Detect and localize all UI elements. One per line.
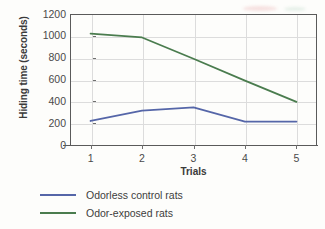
chart-figure: Hiding time (seconds) 020040060080010001… [0,0,325,229]
legend-item: Odorless control rats [40,186,310,204]
vertical-gridline [143,15,144,145]
horizontal-gridline [71,59,316,60]
y-tick-label: 200 [32,118,66,129]
x-tick-label: 2 [130,152,154,164]
x-tick-label: 4 [233,152,257,164]
horizontal-gridline [71,124,316,125]
y-tick-label: 1000 [32,30,66,41]
horizontal-gridline [71,81,316,82]
y-tick-label: 400 [32,96,66,107]
vertical-gridline [297,15,298,145]
horizontal-gridline [71,37,316,38]
legend-item: Odor-exposed rats [40,204,310,222]
scan-artifact [284,7,306,11]
x-tick-label: 1 [79,152,103,164]
legend-label: Odor-exposed rats [86,207,173,219]
scan-artifact [243,6,277,11]
x-tick-mark [245,145,246,149]
x-tick-mark [194,145,195,149]
vertical-gridline [92,15,93,145]
x-axis-line [63,145,318,146]
legend-line-swatch [40,212,76,214]
x-axis-title: Trials [70,166,317,177]
y-axis-title: Hiding time (seconds) [18,0,29,138]
legend-line-swatch [40,194,76,196]
x-tick-mark [296,145,297,149]
plot-area [70,14,317,145]
chart-legend: Odorless control ratsOdor-exposed rats [40,186,310,222]
x-tick-mark [91,145,92,149]
x-tick-mark [142,145,143,149]
vertical-gridline [195,15,196,145]
legend-label: Odorless control rats [86,189,183,201]
y-tick-label: 0 [32,140,66,151]
y-tick-label: 1200 [32,9,66,20]
x-tick-label: 3 [182,152,206,164]
y-tick-label: 600 [32,74,66,85]
vertical-gridline [246,15,247,145]
x-tick-label: 5 [284,152,308,164]
horizontal-gridline [71,102,316,103]
y-tick-label: 800 [32,52,66,63]
